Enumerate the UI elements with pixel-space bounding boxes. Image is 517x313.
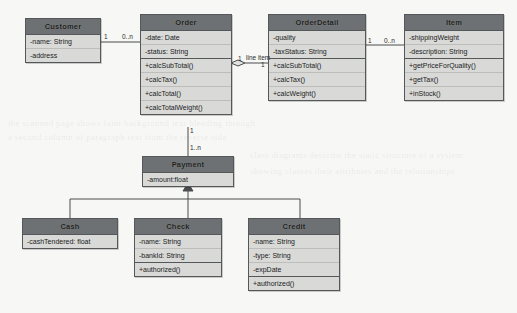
- class-attribute: -address: [26, 49, 100, 62]
- multiplicity-order-payment-top: 1: [190, 127, 194, 134]
- class-title-order: Order: [141, 15, 231, 31]
- class-box-orderdetail[interactable]: OrderDetail -quality -taxStatus: String …: [268, 14, 366, 101]
- class-attribute: -type: String: [249, 249, 339, 263]
- class-title-item: Item: [405, 15, 503, 31]
- class-attribute: -name: String: [249, 235, 339, 249]
- class-box-payment[interactable]: Payment -amount:float: [142, 156, 234, 187]
- association-label-line-item: line item: [246, 54, 270, 61]
- class-operations-check: +authorized(): [135, 262, 221, 276]
- class-attribute: -date: Date: [141, 31, 231, 45]
- class-operations-order: +calcSubTotal() +calcTax() +calcTotal() …: [141, 58, 231, 114]
- multiplicity-order-payment-bottom: 1..n: [190, 144, 201, 151]
- class-attribute: -name: String: [26, 35, 100, 49]
- multiplicity-customer-side: 1: [104, 33, 108, 40]
- class-operation: +calcTax(): [269, 73, 365, 87]
- class-box-order[interactable]: Order -date: Date -status: String +calcS…: [140, 14, 232, 115]
- class-attribute: -quality: [269, 31, 365, 45]
- class-attributes-cash: -cashTendered: float: [23, 235, 117, 248]
- class-attribute: -cashTendered: float: [23, 235, 117, 248]
- class-operation: +calcSubTotal(): [141, 59, 231, 73]
- class-operation: +getPriceForQuality(): [405, 59, 503, 73]
- class-attributes-check: -name: String -bankId: String: [135, 235, 221, 262]
- multiplicity-order-detail-left: 1: [238, 55, 242, 62]
- class-attribute: -description: String: [405, 45, 503, 58]
- class-attribute: -expDate: [249, 263, 339, 276]
- class-attributes-credit: -name: String -type: String -expDate: [249, 235, 339, 276]
- class-operation: +calcTotalWeight(): [141, 101, 231, 114]
- class-attribute: -name: String: [135, 235, 221, 249]
- class-title-check: Check: [135, 219, 221, 235]
- class-attribute: -taxStatus: String: [269, 45, 365, 58]
- class-attributes-customer: -name: String -address: [26, 35, 100, 62]
- multiplicity-order-detail-right: 1: [261, 61, 265, 68]
- uml-diagram-canvas: the scanned page shows faint background …: [0, 0, 517, 313]
- class-operation: +inStock(): [405, 87, 503, 100]
- multiplicity-detail-item-left: 1: [368, 37, 372, 44]
- class-attributes-item: -shippingWeight -description: String: [405, 31, 503, 58]
- class-operation: +calcSubTotal(): [269, 59, 365, 73]
- class-attributes-orderdetail: -quality -taxStatus: String: [269, 31, 365, 58]
- class-title-customer: Customer: [26, 19, 100, 35]
- class-title-payment: Payment: [143, 157, 233, 173]
- class-box-cash[interactable]: Cash -cashTendered: float: [22, 218, 118, 249]
- class-attribute: -amount:float: [143, 173, 233, 186]
- class-operation: +calcWeight(): [269, 87, 365, 100]
- multiplicity-detail-item-right: 0..n: [384, 37, 395, 44]
- class-box-check[interactable]: Check -name: String -bankId: String +aut…: [134, 218, 222, 277]
- class-box-credit[interactable]: Credit -name: String -type: String -expD…: [248, 218, 340, 291]
- class-operation: +calcTotal(): [141, 87, 231, 101]
- class-box-customer[interactable]: Customer -name: String -address: [25, 18, 101, 63]
- class-operation: +authorized(): [249, 277, 339, 290]
- class-attributes-order: -date: Date -status: String: [141, 31, 231, 58]
- class-operations-credit: +authorized(): [249, 276, 339, 290]
- class-attributes-payment: -amount:float: [143, 173, 233, 186]
- class-operation: +calcTax(): [141, 73, 231, 87]
- class-operations-item: +getPriceForQuality() +getTax() +inStock…: [405, 58, 503, 100]
- class-title-cash: Cash: [23, 219, 117, 235]
- class-attribute: -status: String: [141, 45, 231, 58]
- class-operations-orderdetail: +calcSubTotal() +calcTax() +calcWeight(): [269, 58, 365, 100]
- class-operation: +getTax(): [405, 73, 503, 87]
- class-title-credit: Credit: [249, 219, 339, 235]
- class-attribute: -shippingWeight: [405, 31, 503, 45]
- class-box-item[interactable]: Item -shippingWeight -description: Strin…: [404, 14, 504, 101]
- class-title-orderdetail: OrderDetail: [269, 15, 365, 31]
- class-operation: +authorized(): [135, 263, 221, 276]
- multiplicity-order-side: 0..n: [122, 33, 133, 40]
- class-attribute: -bankId: String: [135, 249, 221, 262]
